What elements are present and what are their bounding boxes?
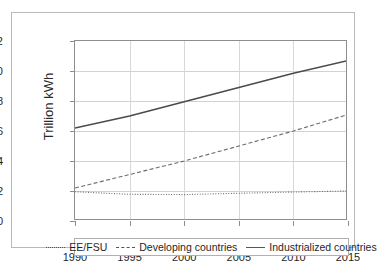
y-tick-mark (70, 131, 75, 132)
chart-legend: EE/FSU Developing countries Industrializ… (74, 238, 349, 256)
legend-line-dotted-icon (46, 247, 65, 248)
y-tick-mark (70, 101, 75, 102)
y-axis-title: Trillion kWh (41, 47, 56, 167)
legend-item-ee-fsu: EE/FSU (46, 241, 107, 253)
x-tick-mark (184, 221, 185, 226)
series-line-developing-countries (75, 115, 346, 189)
series-lines (75, 41, 346, 219)
series-line-ee-fsu (75, 191, 346, 195)
y-tick-label: 0 (0, 215, 3, 227)
y-tick-mark (70, 41, 75, 42)
legend-line-solid-icon (246, 247, 265, 248)
y-tick-label: 4 (0, 155, 3, 167)
legend-item-industrialized-countries: Industrialized countries (246, 241, 376, 253)
x-tick-mark (130, 221, 131, 226)
legend-label-ee-fsu: EE/FSU (69, 241, 107, 253)
y-tick-label: 6 (0, 125, 3, 137)
legend-label-industrialized-countries: Industrialized countries (269, 241, 376, 253)
y-tick-mark (70, 191, 75, 192)
plot-area: 024681012 199019952000200520102015 (74, 40, 347, 220)
figure-border: Trillion kWh 024681012 19901995200020052… (11, 12, 355, 248)
y-tick-label: 12 (0, 35, 3, 47)
x-tick-mark (75, 221, 76, 226)
legend-line-dashed-icon (116, 247, 135, 248)
plot-inner (75, 41, 346, 219)
y-tick-label: 10 (0, 65, 3, 77)
x-tick-mark (293, 221, 294, 226)
y-tick-mark (70, 161, 75, 162)
legend-item-developing-countries: Developing countries (116, 241, 237, 253)
x-tick-mark (348, 221, 349, 226)
series-line-industrialized-countries (75, 61, 346, 129)
legend-label-developing-countries: Developing countries (139, 241, 237, 253)
y-tick-label: 8 (0, 95, 3, 107)
y-tick-mark (70, 71, 75, 72)
x-tick-mark (239, 221, 240, 226)
y-tick-label: 2 (0, 185, 3, 197)
